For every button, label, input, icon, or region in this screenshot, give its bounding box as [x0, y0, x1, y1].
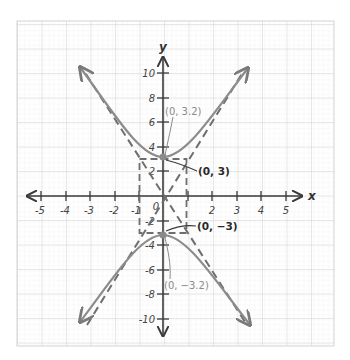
x-tick-label: 3 — [234, 205, 240, 216]
annotation-top-vertex: (0, 3) — [198, 165, 230, 177]
x-tick-label: 4 — [258, 205, 264, 216]
y-axis-label: y — [159, 40, 168, 54]
x-tick-label: -5 — [35, 205, 45, 216]
annotation-bottom-vertex-gray: (0, −3.2) — [164, 280, 209, 291]
y-tick-label: 8 — [149, 93, 155, 104]
y-tick-label: 10 — [142, 68, 155, 79]
y-tick-label: -10 — [139, 314, 155, 325]
y-tick-label: 6 — [149, 117, 155, 128]
x-axis-label: x — [307, 189, 317, 203]
x-tick-label: 5 — [283, 205, 289, 216]
x-tick-label: -3 — [84, 205, 94, 216]
lower-vertex-point — [159, 231, 166, 238]
hyperbola-graph: -5 -4 -3 -2 -1 0 2 3 4 5 10 8 6 4 2 -2 -… — [0, 0, 350, 360]
annotation-bottom-vertex: (0, −3) — [197, 220, 238, 232]
x-tick-label: 2 — [209, 205, 215, 216]
x-tick-label: -4 — [60, 205, 70, 216]
y-tick-label: -6 — [145, 265, 155, 276]
grid — [17, 21, 334, 346]
y-tick-label: -8 — [145, 289, 155, 300]
x-tick-label: -2 — [109, 205, 119, 216]
annotation-top-vertex-gray: (0, 3.2) — [165, 106, 202, 117]
